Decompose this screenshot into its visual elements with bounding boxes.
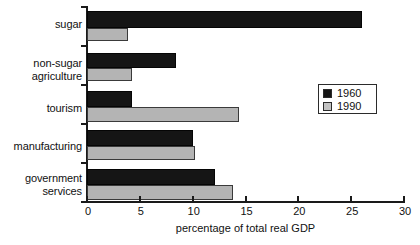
x-axis-tick	[403, 196, 405, 203]
category-label-sugar: sugar	[55, 18, 82, 31]
bar-manufacturing-1960	[87, 130, 193, 146]
x-axis-tick	[139, 196, 141, 203]
y-axis-tick	[81, 162, 88, 164]
legend-entry-1960: 1960	[323, 87, 376, 99]
y-axis-tick	[81, 84, 88, 86]
x-axis-tick-label: 0	[68, 205, 108, 217]
black-square-swatch-icon	[323, 89, 332, 98]
bar-tourism-1960	[87, 91, 132, 107]
bar-non-sugar-agriculture-1990	[87, 68, 132, 81]
y-axis-tick	[81, 123, 88, 125]
x-axis-tick	[86, 196, 88, 203]
bar-manufacturing-1990	[87, 146, 195, 160]
bar-chart: sugar non-sugar agriculture tourism manu…	[0, 0, 420, 245]
x-axis-tick	[350, 196, 352, 203]
x-axis-tick	[297, 196, 299, 203]
legend-label-1960: 1960	[337, 88, 361, 99]
category-label-non-sugar-agriculture: non-sugar agriculture	[32, 57, 82, 82]
bar-tourism-1990	[87, 107, 239, 122]
x-axis-tick-label: 20	[279, 205, 319, 217]
bar-government-services-1990	[87, 185, 233, 200]
y-axis-tick	[81, 45, 88, 47]
x-axis-tick-label: 25	[332, 205, 372, 217]
y-axis-tick	[81, 6, 88, 8]
x-axis-tick	[245, 196, 247, 203]
bar-government-services-1960	[87, 169, 215, 185]
x-axis-title: percentage of total real GDP	[87, 222, 404, 234]
bar-non-sugar-agriculture-1960	[87, 53, 176, 68]
bar-sugar-1960	[87, 11, 362, 28]
bar-sugar-1990	[87, 28, 128, 41]
chart-legend: 1960 1990	[318, 84, 377, 114]
category-label-manufacturing: manufacturing	[14, 140, 82, 153]
x-axis-tick-label: 5	[121, 205, 161, 217]
x-axis-tick-label: 30	[385, 205, 420, 217]
legend-label-1990: 1990	[337, 101, 361, 112]
gray-square-swatch-icon	[323, 102, 332, 111]
legend-entry-1990: 1990	[323, 100, 376, 112]
category-label-government-services: government services	[25, 172, 82, 197]
category-label-tourism: tourism	[47, 102, 82, 115]
x-axis-tick	[192, 196, 194, 203]
x-axis-tick-label: 15	[227, 205, 267, 217]
x-axis-tick-label: 10	[174, 205, 214, 217]
